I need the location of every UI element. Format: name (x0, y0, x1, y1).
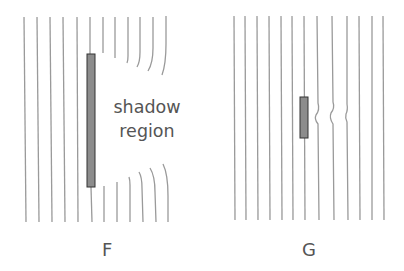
panel-f-barrier (87, 54, 95, 187)
shadow-label-line1: shadow (108, 95, 186, 119)
panel-g-barrier (300, 97, 308, 138)
diagram-graphics (0, 0, 404, 271)
panel-label-f: F (102, 239, 112, 260)
panel-g-wavefronts (234, 16, 384, 220)
diffraction-diagram: shadow region F G (0, 0, 404, 271)
shadow-label-line2: region (108, 119, 186, 143)
shadow-region-annotation: shadow region (108, 95, 186, 143)
panel-label-g: G (302, 239, 316, 260)
